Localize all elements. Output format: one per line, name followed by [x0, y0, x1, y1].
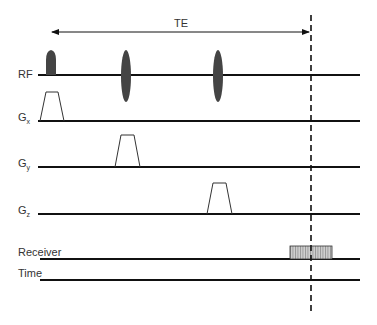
rf-label: RF	[18, 68, 33, 80]
gz-gradient-lobe	[207, 183, 232, 214]
rf-excitation-pulse	[46, 50, 56, 75]
rf-refocusing-pulse-1	[121, 50, 131, 102]
gx-gradient-lobe	[40, 92, 64, 121]
receiver-label: Receiver	[18, 246, 62, 258]
gy-gradient-lobe	[115, 135, 140, 167]
gz-label: Gz	[18, 204, 31, 218]
te-label: TE	[174, 17, 188, 29]
gx-label: Gx	[18, 111, 31, 125]
gy-label: Gy	[18, 157, 31, 172]
rf-refocusing-pulse-2	[213, 50, 223, 102]
pulse-sequence-diagram: TE RF Gx Gy Gz Receiver Time	[0, 0, 377, 325]
time-label: Time	[18, 267, 42, 279]
